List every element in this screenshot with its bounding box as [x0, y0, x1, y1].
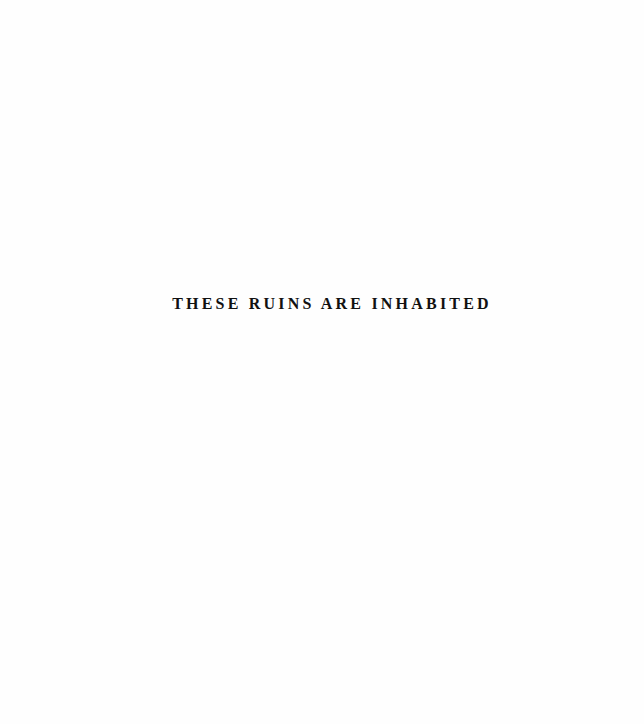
book-page: THESE RUINS ARE INHABITED — [0, 0, 644, 724]
half-title: THESE RUINS ARE INHABITED — [0, 294, 644, 314]
